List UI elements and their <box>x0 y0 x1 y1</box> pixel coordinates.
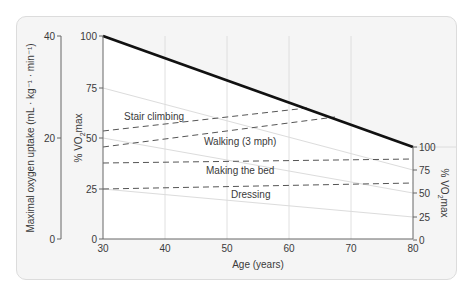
x-tick: 70 <box>345 243 357 254</box>
x-tick: 80 <box>407 243 419 254</box>
y-inner-tick: 50 <box>86 133 98 144</box>
label-stair-climbing: Stair climbing <box>124 111 184 122</box>
x-tick: 50 <box>221 243 233 254</box>
label-walking: Walking (3 mph) <box>204 136 276 147</box>
y-inner-tick: 100 <box>80 31 97 42</box>
y-outer-tick: 40 <box>44 31 56 42</box>
x-axis-title: Age (years) <box>232 259 284 270</box>
x-tick: 30 <box>97 243 109 254</box>
label-making-bed: Making the bed <box>206 165 274 176</box>
y-right-axis-title: % VO2max <box>437 169 450 218</box>
y-right-tick: 25 <box>419 212 431 223</box>
y-right-tick: 100 <box>419 142 436 153</box>
y-inner-tick: 75 <box>86 83 98 94</box>
x-tick: 40 <box>159 243 171 254</box>
y-outer-axis-title: Maximal oxygen uptake (mL · kg⁻¹ · min⁻¹… <box>25 43 36 232</box>
y-outer-tick: 20 <box>44 133 56 144</box>
y-right-tick: 0 <box>419 235 425 246</box>
y-inner-axis-title: % VO2max <box>73 114 86 163</box>
y-inner-tick: 25 <box>86 184 98 195</box>
y-right-tick: 50 <box>419 188 431 199</box>
x-tick: 60 <box>283 243 295 254</box>
label-dressing: Dressing <box>231 189 270 200</box>
chart: 40 20 0 100 75 50 25 0 100 75 50 25 0 30… <box>0 0 473 294</box>
y-right-tick: 75 <box>419 165 431 176</box>
y-outer-tick: 0 <box>49 234 55 245</box>
